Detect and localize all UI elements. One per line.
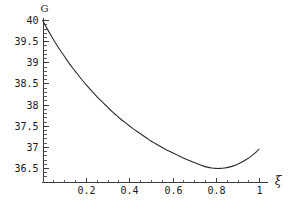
- line-chart: 0.20.40.60.8136.53737.53838.53939.540Gξ: [0, 0, 292, 213]
- x-axis-tick-label: 0.2: [77, 185, 95, 196]
- y-axis-tick-label: 37: [26, 142, 38, 153]
- x-axis-tick-label: 0.4: [120, 185, 138, 196]
- y-axis-tick-label: 38.5: [14, 78, 38, 89]
- y-axis-title: G: [41, 3, 49, 14]
- x-axis-tick-label: 0.6: [164, 185, 182, 196]
- x-axis-tick-label: 0.8: [207, 185, 225, 196]
- x-axis-major-ticks: 0.20.40.60.81: [77, 178, 262, 196]
- data-series-curve: [43, 20, 260, 168]
- x-axis-title: ξ: [275, 174, 283, 188]
- y-axis-tick-label: 39: [26, 57, 38, 68]
- y-axis-tick-label: 37.5: [14, 121, 38, 132]
- y-axis-tick-label: 40: [26, 15, 38, 26]
- x-axis-tick-label: 1: [256, 185, 262, 196]
- y-axis-tick-label: 39.5: [14, 36, 38, 47]
- y-axis-tick-label: 36.5: [14, 163, 38, 174]
- chart-container: 0.20.40.60.8136.53737.53838.53939.540Gξ: [0, 0, 292, 213]
- y-axis-tick-label: 38: [26, 100, 38, 111]
